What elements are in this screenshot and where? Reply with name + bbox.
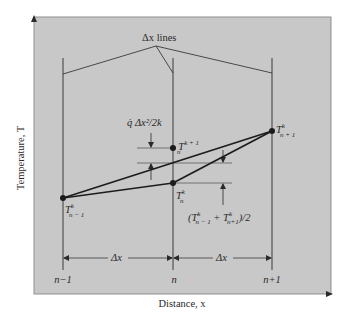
y-axis-label: Temperature, T xyxy=(15,125,26,190)
callout-label: Δx lines xyxy=(142,32,176,43)
point-t-next-time xyxy=(170,145,176,151)
node-label-n: n xyxy=(171,274,176,285)
point-t-prev xyxy=(60,195,66,201)
point-t-curr xyxy=(170,180,176,186)
node-label-n-minus-1: n−1 xyxy=(54,274,72,285)
point-t-next-space xyxy=(269,128,275,134)
finite-difference-diagram: Δx lines Tkn − 1 Tkn Tk + 1n Tkn + 1 q̇ … xyxy=(0,0,348,316)
spacing-right-label: Δx xyxy=(215,252,227,263)
node-label-n-plus-1: n+1 xyxy=(263,274,281,285)
plot-panel xyxy=(34,17,331,294)
spacing-left-label: Δx xyxy=(110,252,122,263)
generation-term-label: q̇ Δx²/2k xyxy=(127,117,162,128)
x-axis-label: Distance, x xyxy=(158,298,206,309)
